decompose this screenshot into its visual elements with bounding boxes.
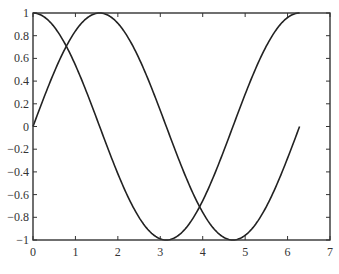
y-tick-label: −1 bbox=[16, 233, 29, 247]
plot-frame bbox=[33, 13, 330, 240]
x-tick-label: 5 bbox=[242, 245, 248, 259]
y-axis: 10.80.60.40.20−0.2−0.4−0.6−0.8−1 bbox=[7, 6, 330, 247]
plot-curves bbox=[33, 13, 300, 240]
y-tick-label: 1 bbox=[23, 6, 29, 20]
x-tick-label: 3 bbox=[157, 245, 163, 259]
x-tick-label: 4 bbox=[200, 245, 206, 259]
series-line-sin bbox=[33, 13, 300, 240]
y-tick-label: −0.8 bbox=[7, 210, 29, 224]
x-tick-label: 2 bbox=[115, 245, 121, 259]
y-tick-label: −0.6 bbox=[7, 188, 29, 202]
y-tick-label: −0.4 bbox=[7, 165, 29, 179]
y-tick-label: 0 bbox=[23, 120, 29, 134]
x-tick-label: 7 bbox=[327, 245, 333, 259]
y-tick-label: −0.2 bbox=[7, 142, 29, 156]
y-tick-label: 0.6 bbox=[14, 51, 29, 65]
y-tick-label: 0.2 bbox=[14, 97, 29, 111]
y-tick-label: 0.8 bbox=[14, 29, 29, 43]
x-tick-label: 1 bbox=[72, 245, 78, 259]
x-tick-label: 6 bbox=[285, 245, 291, 259]
x-axis: 01234567 bbox=[30, 13, 333, 259]
y-tick-label: 0.4 bbox=[14, 74, 29, 88]
line-chart: 01234567 10.80.60.40.20−0.2−0.4−0.6−0.8−… bbox=[0, 0, 339, 274]
x-tick-label: 0 bbox=[30, 245, 36, 259]
